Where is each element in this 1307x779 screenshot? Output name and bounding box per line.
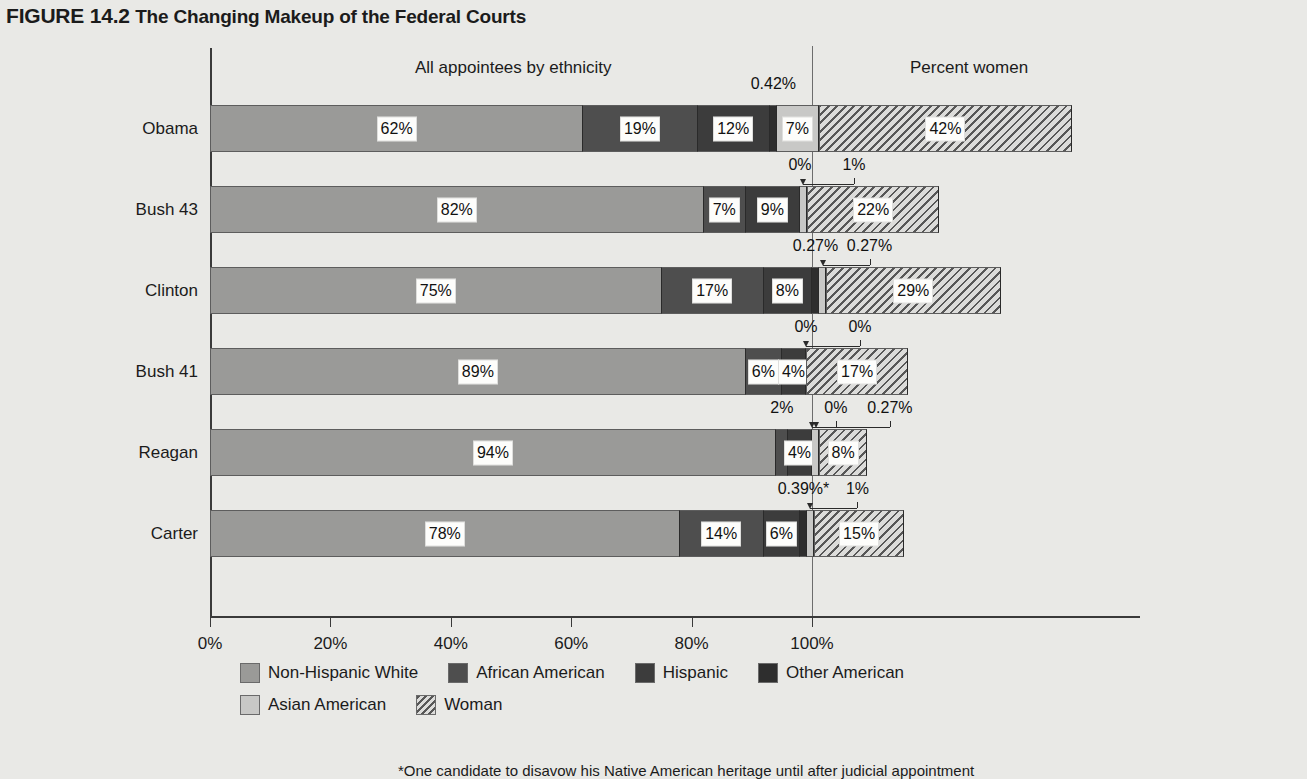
category-label-bush-43: Bush 43 — [50, 200, 198, 220]
segment-value: 22% — [808, 197, 938, 222]
legend-label: African American — [476, 663, 605, 683]
segment-value: 4% — [782, 359, 805, 384]
segment-value-label: 14% — [701, 521, 741, 546]
segment-woman: 42% — [819, 105, 1072, 152]
segment-africanamerican: 14% — [680, 510, 764, 557]
segment-value-label: 9% — [757, 197, 788, 222]
segment-value-label: 75% — [416, 278, 456, 303]
segment-value-label: 89% — [458, 359, 498, 384]
legend-row-primary: Non-Hispanic WhiteAfrican AmericanHispan… — [240, 663, 1140, 683]
segment-value: 14% — [680, 521, 763, 546]
legend-item-hispanic[interactable]: Hispanic — [635, 663, 728, 683]
segment-value-label: 7% — [782, 116, 813, 141]
segment-value-label: 8% — [828, 440, 859, 465]
segment-value-label: 82% — [437, 197, 477, 222]
segment-other — [770, 105, 777, 152]
segment-hispanic: 4% — [788, 429, 812, 476]
segment-value-label: 42% — [925, 116, 965, 141]
segment-value: 7% — [777, 116, 818, 141]
legend-item-other[interactable]: Other American — [758, 663, 904, 683]
leader-arrowhead — [807, 503, 813, 509]
segment-asian — [800, 186, 807, 233]
legend-swatch-hispanic-icon — [635, 663, 655, 683]
leader-line — [870, 259, 871, 265]
segment-hispanic: 12% — [698, 105, 770, 152]
x-axis-tick-label: 100% — [772, 634, 852, 654]
segment-value-label: 17% — [837, 359, 877, 384]
x-axis-tick-label: 60% — [531, 634, 611, 654]
legend-swatch-africanamerican-icon — [448, 663, 468, 683]
segment-asian: 7% — [777, 105, 819, 152]
leader-line — [860, 340, 861, 346]
segment-value: 6% — [746, 359, 781, 384]
segment-woman: 15% — [814, 510, 904, 557]
segment-white: 82% — [210, 186, 704, 233]
legend-item-asian[interactable]: Asian American — [240, 695, 386, 715]
legend-item-white[interactable]: Non-Hispanic White — [240, 663, 418, 683]
legend-row-secondary: Asian AmericanWoman — [240, 695, 1140, 715]
chart-plot-area: All appointees by ethnicity Percent wome… — [210, 48, 1140, 618]
x-axis-tick — [330, 616, 331, 627]
legend-swatch-white-icon — [240, 663, 260, 683]
x-axis-tick-label: 80% — [652, 634, 732, 654]
legend-label: Woman — [444, 695, 502, 715]
x-axis-tick — [451, 616, 452, 627]
x-axis-line — [210, 616, 1140, 618]
legend-label: Asian American — [268, 695, 386, 715]
segment-value-label: 62% — [377, 116, 417, 141]
category-label-bush-41: Bush 41 — [50, 362, 198, 382]
legend-label: Other American — [786, 663, 904, 683]
segment-value: 94% — [211, 440, 775, 465]
x-axis-tick-label: 0% — [170, 634, 250, 654]
segment-value: 42% — [820, 116, 1071, 141]
segment-value-label: 94% — [473, 440, 513, 465]
column-header-ethnicity: All appointees by ethnicity — [415, 58, 612, 78]
segment-value-label: 19% — [620, 116, 660, 141]
segment-africanamerican — [776, 429, 788, 476]
category-label-carter: Carter — [50, 524, 198, 544]
leader-line — [806, 346, 860, 347]
segment-value: 8% — [764, 278, 811, 303]
segment-value: 17% — [807, 359, 907, 384]
column-header-women: Percent women — [910, 58, 1028, 78]
segment-woman: 29% — [826, 267, 1001, 314]
segment-white: 89% — [210, 348, 746, 395]
segment-value: 4% — [788, 440, 811, 465]
figure-footnote: *One candidate to disavow his Native Ame… — [398, 762, 974, 779]
leader-arrowhead — [800, 179, 806, 185]
segment-africanamerican: 6% — [746, 348, 782, 395]
segment-value-label: 4% — [778, 359, 809, 384]
segment-value: 89% — [211, 359, 745, 384]
category-label-reagan: Reagan — [50, 443, 198, 463]
segment-value: 29% — [827, 278, 1000, 303]
leader-line — [803, 184, 854, 185]
segment-hispanic: 4% — [782, 348, 806, 395]
leader-line — [890, 421, 891, 427]
category-label-clinton: Clinton — [50, 281, 198, 301]
segment-value: 12% — [698, 116, 769, 141]
segment-value: 17% — [662, 278, 763, 303]
callout-label-asian: 1% — [814, 156, 894, 174]
leader-arrowhead — [820, 260, 826, 266]
segment-africanamerican: 17% — [662, 267, 764, 314]
segment-value: 7% — [704, 197, 745, 222]
legend-item-woman[interactable]: Woman — [416, 695, 502, 715]
segment-value: 6% — [764, 521, 799, 546]
legend-swatch-woman-icon — [416, 695, 436, 715]
segment-value: 8% — [820, 440, 866, 465]
callout-label-other: 0.42% — [733, 75, 813, 93]
callout-label-asian: 1% — [817, 480, 897, 498]
segment-value: 9% — [746, 197, 799, 222]
segment-value-label: 78% — [425, 521, 465, 546]
figure-number: FIGURE 14.2 — [6, 4, 130, 27]
x-axis-tick-label: 40% — [411, 634, 491, 654]
legend-item-africanamerican[interactable]: African American — [448, 663, 605, 683]
x-axis-tick — [692, 616, 693, 627]
segment-value-label: 4% — [784, 440, 815, 465]
legend-label: Non-Hispanic White — [268, 663, 418, 683]
callout-label-asian: 0.27% — [830, 237, 910, 255]
callout-label-asian: 0.27% — [850, 399, 930, 417]
segment-value-label: 7% — [709, 197, 740, 222]
segment-asian — [812, 429, 819, 476]
segment-other — [812, 267, 819, 314]
